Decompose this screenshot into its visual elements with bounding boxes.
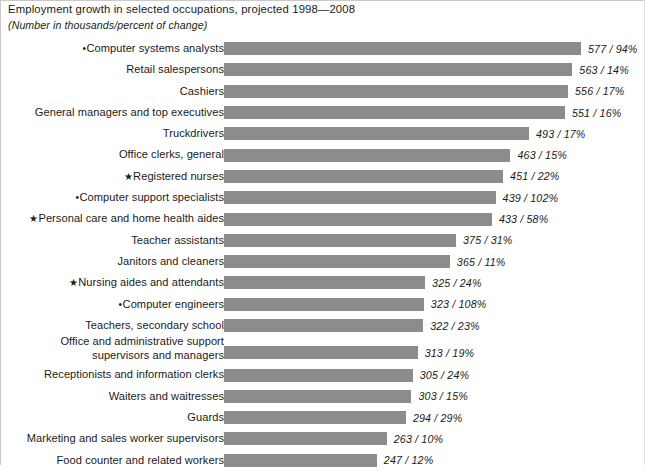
bar-category-text: Computer systems analysts <box>86 42 224 54</box>
bar-category-label: Teacher assistants <box>131 234 224 247</box>
bar <box>224 255 450 268</box>
chart-row: Janitors and cleaners365 / 11% <box>1 251 645 272</box>
bar-with-value: 365 / 11% <box>224 255 645 268</box>
bar-category-label: Waiters and waitresses <box>109 390 224 403</box>
bar-category-label: Office clerks, general <box>119 148 224 161</box>
chart-row: Teacher assistants375 / 31% <box>1 230 645 251</box>
bar-with-value: 325 / 24% <box>224 276 645 289</box>
chart-row: •Computer support specialists439 / 102% <box>1 187 645 208</box>
bar-value-label: 294 / 29% <box>413 412 462 424</box>
bar <box>224 234 456 247</box>
bar-value-label: 577 / 94% <box>588 43 637 55</box>
bar <box>224 127 529 140</box>
bar-value-label: 563 / 14% <box>579 64 628 76</box>
chart-row: •Computer engineers323 / 108% <box>1 294 645 315</box>
bar-category-text: Retail salespersons <box>126 63 224 75</box>
bar <box>224 42 581 55</box>
bar <box>224 170 503 183</box>
bar-value-label: 463 / 15% <box>517 149 566 161</box>
bar-category-text: Office and administrative support superv… <box>60 335 224 360</box>
bar-category-text: Teacher assistants <box>131 234 224 246</box>
bar <box>224 346 418 359</box>
bar-with-value: 439 / 102% <box>224 191 645 204</box>
chart-row: Truckdrivers493 / 17% <box>1 123 645 144</box>
star-icon: ★ <box>69 277 79 288</box>
bar-with-value: 313 / 19% <box>224 346 645 359</box>
bar-value-label: 263 / 10% <box>394 433 443 445</box>
bar-with-value: 433 / 58% <box>224 213 645 226</box>
bar-chart-plot-area: •Computer systems analysts577 / 94%Retai… <box>1 38 645 471</box>
bar <box>224 298 424 311</box>
bar-category-text: Truckdrivers <box>163 127 224 139</box>
bar-value-label: 303 / 15% <box>418 390 467 402</box>
bar-category-text: Computer engineers <box>123 298 224 310</box>
chart-row: Marketing and sales worker supervisors26… <box>1 428 645 449</box>
chart-row: Guards294 / 29% <box>1 407 645 428</box>
chart-row: Teachers, secondary school322 / 23% <box>1 315 645 336</box>
bar-value-label: 493 / 17% <box>536 128 585 140</box>
bar-category-label: •Computer engineers <box>119 298 224 311</box>
bar-value-label: 365 / 11% <box>457 256 506 268</box>
bar-with-value: 463 / 15% <box>224 149 645 162</box>
bar <box>224 390 411 403</box>
bar-value-label: 323 / 108% <box>431 298 487 310</box>
bar <box>224 149 510 162</box>
bar <box>224 369 413 382</box>
bar-value-label: 305 / 24% <box>420 369 469 381</box>
chart-row: ★Nursing aides and attendants325 / 24% <box>1 272 645 293</box>
bar-category-label: Teachers, secondary school <box>85 319 224 332</box>
chart-row: Receptionists and information clerks305 … <box>1 364 645 385</box>
bar-category-label: Truckdrivers <box>163 127 224 140</box>
bar-category-text: General managers and top executives <box>35 106 224 118</box>
bar-category-text: Guards <box>187 411 224 423</box>
bar-with-value: 247 / 12% <box>224 454 645 467</box>
chart-row: ★Registered nurses451 / 22% <box>1 166 645 187</box>
chart-title: Employment growth in selected occupation… <box>8 3 355 15</box>
bar-value-label: 325 / 24% <box>432 277 481 289</box>
chart-row: ★Personal care and home health aides433 … <box>1 208 645 229</box>
bar-value-label: 375 / 31% <box>463 234 512 246</box>
chart-row: •Computer systems analysts577 / 94% <box>1 38 645 59</box>
bar-with-value: 551 / 16% <box>224 106 645 119</box>
bar <box>224 432 387 445</box>
bar-category-label: Guards <box>187 411 224 424</box>
star-icon: ★ <box>124 171 134 182</box>
bar-category-text: Registered nurses <box>133 170 224 182</box>
bar <box>224 454 377 467</box>
bar-category-text: Food counter and related workers <box>57 454 224 466</box>
bar-category-label: ★Personal care and home health aides <box>29 212 224 225</box>
chart-subtitle: (Number in thousands/percent of change) <box>8 19 207 31</box>
bar-with-value: 305 / 24% <box>224 369 645 382</box>
bar-category-text: Cashiers <box>180 85 224 97</box>
bar-with-value: 322 / 23% <box>224 319 645 332</box>
chart-row: Food counter and related workers247 / 12… <box>1 450 645 471</box>
bar <box>224 213 492 226</box>
bar-value-label: 247 / 12% <box>384 454 433 466</box>
bar <box>224 63 572 76</box>
bar-category-label: •Computer systems analysts <box>82 42 224 55</box>
bar-value-label: 551 / 16% <box>572 107 621 119</box>
bar-category-text: Teachers, secondary school <box>85 319 224 331</box>
bar <box>224 106 565 119</box>
chart-row: Office and administrative support superv… <box>1 336 645 364</box>
bar <box>224 276 425 289</box>
bar-category-text: Waiters and waitresses <box>109 390 224 402</box>
bar-category-text: Personal care and home health aides <box>38 212 224 224</box>
bar-with-value: 263 / 10% <box>224 432 645 445</box>
bar-value-label: 451 / 22% <box>510 170 559 182</box>
bar <box>224 191 496 204</box>
chart-row: Retail salespersons563 / 14% <box>1 59 645 80</box>
bar-with-value: 303 / 15% <box>224 390 645 403</box>
bar-category-label: ★Nursing aides and attendants <box>69 276 224 289</box>
bar-category-label: Food counter and related workers <box>57 454 224 467</box>
bar-category-label: Office and administrative support superv… <box>60 335 224 362</box>
bar-category-text: Janitors and cleaners <box>118 255 225 267</box>
chart-row: Office clerks, general463 / 15% <box>1 144 645 165</box>
bar-category-label: ★Registered nurses <box>124 170 224 183</box>
bar-category-text: Office clerks, general <box>119 148 224 160</box>
bar-category-label: Marketing and sales worker supervisors <box>27 432 224 445</box>
bar-with-value: 451 / 22% <box>224 170 645 183</box>
bar-value-label: 556 / 17% <box>575 85 624 97</box>
bar-category-label: •Computer support specialists <box>76 191 224 204</box>
